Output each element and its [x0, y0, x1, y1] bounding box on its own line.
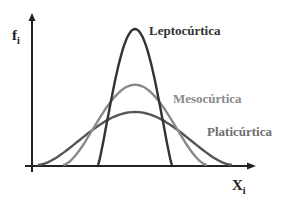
- x-axis-label: Xi: [232, 177, 246, 196]
- y-axis-label: fi: [12, 27, 20, 46]
- label-platicurtica: Platicúrtica: [207, 124, 272, 139]
- y-axis-arrow: [29, 13, 36, 21]
- label-mesocurtica: Mesocúrtica: [173, 91, 242, 106]
- diagram-canvas: fi Xi Leptocúrtica Mesocúrtica Platicúrt…: [0, 0, 285, 204]
- curve-platicurtica: [38, 112, 232, 165]
- curve-leptocurtica: [98, 29, 172, 165]
- label-leptocurtica: Leptocúrtica: [149, 23, 221, 38]
- kurtosis-diagram: fi Xi Leptocúrtica Mesocúrtica Platicúrt…: [0, 0, 285, 204]
- x-axis-arrow: [247, 163, 256, 170]
